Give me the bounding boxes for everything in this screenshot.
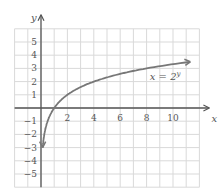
svg-text:−3: −3 (24, 143, 38, 153)
svg-text:8: 8 (144, 113, 150, 123)
equation-label: x = 2y (150, 70, 182, 82)
svg-text:4: 4 (91, 113, 97, 123)
svg-text:5: 5 (31, 37, 37, 47)
svg-text:2: 2 (31, 77, 37, 87)
svg-text:−2: −2 (24, 129, 37, 139)
svg-text:−4: −4 (24, 156, 38, 166)
x-axis-label: x (211, 113, 217, 124)
svg-text:−1: −1 (24, 116, 37, 126)
y-axis-label: y (30, 12, 37, 23)
svg-text:10: 10 (167, 113, 179, 123)
svg-text:3: 3 (31, 63, 37, 73)
log-graph: 24681054321−1−2−3−4−5 x = 2y x y (0, 0, 223, 196)
svg-text:1: 1 (31, 90, 37, 100)
svg-text:4: 4 (31, 50, 37, 60)
svg-text:2: 2 (65, 113, 71, 123)
axes (15, 15, 210, 187)
svg-text:6: 6 (117, 113, 123, 123)
svg-text:−5: −5 (24, 169, 38, 179)
